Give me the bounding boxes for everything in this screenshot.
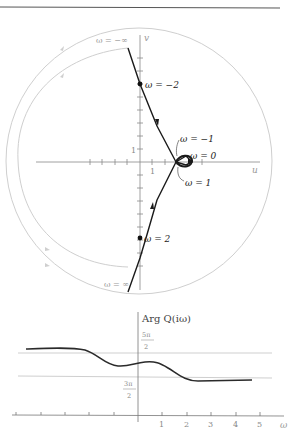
v-tick-label-1: 1 xyxy=(131,146,136,155)
label-w-neg-inf: ω = −∞ xyxy=(96,36,128,45)
label-5pi-den: 2 xyxy=(144,343,148,351)
nyquist-plot: u v 1 1 ω = −∞ ω = −2 ω = −1 ω = 0 ω = 1… xyxy=(6,28,272,294)
outer-guide-circle xyxy=(6,28,272,294)
inner-guide-arc xyxy=(18,48,128,267)
label-w-neg-1: ω = −1 xyxy=(180,134,214,144)
omega-tick-1: 1 xyxy=(159,420,164,429)
arc-arrow-icon xyxy=(45,263,50,267)
v-axis-label: v xyxy=(144,33,149,43)
figure: u v 1 1 ω = −∞ ω = −2 ω = −1 ω = 0 ω = 1… xyxy=(0,0,299,445)
label-3pi-den: 2 xyxy=(127,392,131,400)
omega-tick-5: 5 xyxy=(257,420,262,429)
leader-w-neg-1 xyxy=(176,140,179,156)
label-w-neg-2: ω = −2 xyxy=(145,80,179,90)
omega-axis xyxy=(12,415,284,416)
label-w-inf: ω = ∞ xyxy=(104,280,129,289)
omega-axis-label: ω xyxy=(280,420,288,430)
arc-arrow-icon xyxy=(60,73,64,78)
point-w-2 xyxy=(138,236,143,241)
omega-tick-4: 4 xyxy=(233,420,238,429)
curve-arrow-icon xyxy=(150,202,154,209)
arc-arrow-icon xyxy=(60,46,64,51)
arg-plot: 1 2 3 4 5 ω Arg Q(iω) 5π 2 3π 2 xyxy=(12,312,288,430)
label-w-1: ω = 1 xyxy=(185,178,211,188)
arc-arrow-icon xyxy=(45,247,50,251)
label-w-2: ω = 2 xyxy=(144,234,171,244)
u-tick-label-1: 1 xyxy=(150,167,155,176)
page-header-rule xyxy=(0,7,280,8)
point-w-neg-2 xyxy=(138,82,143,87)
label-w-0: ω = 0 xyxy=(190,151,217,161)
omega-tick-3: 3 xyxy=(208,420,213,429)
arg-plot-title: Arg Q(iω) xyxy=(141,313,191,324)
u-axis-label: u xyxy=(252,165,258,175)
ref-line-3pi-2 xyxy=(18,376,272,378)
label-3pi: 3π xyxy=(124,380,133,388)
leader-w-1 xyxy=(178,167,184,181)
omega-tick-2: 2 xyxy=(184,420,189,429)
arg-title-text: Arg Q(iω) xyxy=(141,313,191,324)
label-5pi: 5π xyxy=(142,331,151,339)
